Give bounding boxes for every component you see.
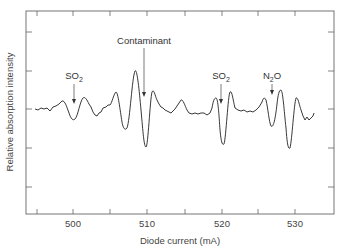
x-tick-label-510: 510	[139, 218, 155, 229]
absorption-chart: 500 510 520 530 Diode current (mA) Relat…	[0, 0, 344, 252]
so2-left-label: SO2	[65, 70, 83, 83]
so2-left-arrowhead-icon	[72, 99, 76, 104]
n2o-label: N2O	[263, 70, 281, 83]
contaminant-label: Contaminant	[117, 35, 171, 46]
x-tick-label-500: 500	[65, 218, 81, 229]
so2-right-label: SO2	[212, 70, 230, 83]
contaminant-arrowhead-icon	[142, 92, 146, 97]
plot-frame	[26, 11, 334, 214]
n2o-arrowhead-icon	[270, 90, 274, 95]
annotation-arrowheads	[72, 90, 274, 104]
so2-right-arrowhead-icon	[219, 99, 223, 104]
annotation-arrows	[74, 48, 272, 101]
y-ticks-right	[328, 32, 334, 187]
y-ticks-left	[26, 32, 32, 187]
x-ticks-top	[37, 11, 295, 16]
x-tick-label-530: 530	[287, 218, 303, 229]
x-axis-title: Diode current (mA)	[140, 235, 220, 246]
y-axis-title: Relative absorption intensity	[4, 52, 15, 171]
x-ticks-bottom	[37, 209, 295, 214]
x-tick-label-520: 520	[214, 218, 230, 229]
